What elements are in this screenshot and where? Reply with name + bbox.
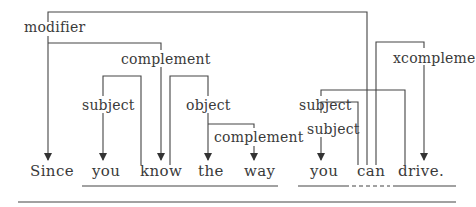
label-xcomplement: xcompleme [393, 50, 476, 66]
complement-arc [48, 43, 161, 50]
word-the: the [198, 163, 224, 180]
word-way: way [244, 163, 275, 180]
label-complement-top: complement [121, 51, 210, 67]
label-subject-lower-right: subject [307, 121, 360, 137]
label-object: object [186, 97, 231, 113]
subject-arc-left [103, 76, 141, 165]
word-you-2: you [310, 163, 338, 180]
label-modifier: modifier [24, 19, 85, 35]
word-you-1: you [92, 163, 120, 180]
word-can: can [357, 163, 385, 180]
word-since: Since [30, 163, 74, 180]
label-complement-low: complement [214, 129, 303, 145]
label-subject-left: subject [82, 97, 135, 113]
complement-low-arc [208, 124, 254, 128]
object-arc [170, 76, 208, 165]
word-know: know [140, 163, 182, 180]
word-drive: drive. [398, 163, 444, 180]
label-subject-upper-right: subject [299, 97, 352, 113]
